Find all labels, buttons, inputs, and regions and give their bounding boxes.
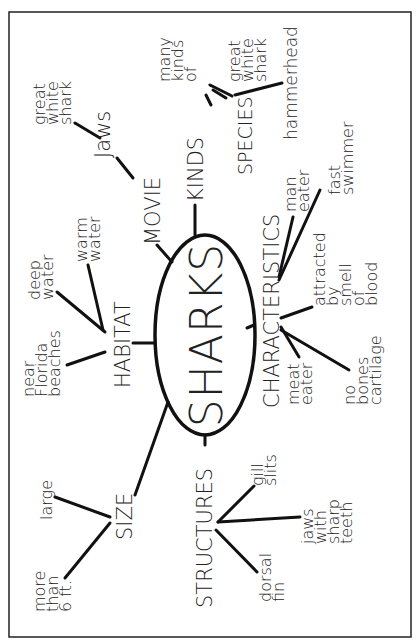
branch-kinds: KINDS SPECIES many kinds of great white … bbox=[155, 26, 301, 202]
svg-text:blood: blood bbox=[362, 262, 381, 306]
svg-text:water: water bbox=[85, 216, 104, 262]
leaf-large: large bbox=[37, 480, 56, 520]
shark-mind-map: SHARKS MOVIE Ja bbox=[0, 0, 420, 643]
branch-label-movie: MOVIE bbox=[141, 177, 165, 245]
svg-text:eater: eater bbox=[294, 169, 313, 212]
node-species: SPECIES bbox=[234, 97, 256, 175]
branch-characteristics: CHARACTERISTICS man eater fast swimmer a… bbox=[260, 121, 385, 408]
svg-text:shark: shark bbox=[251, 38, 270, 82]
svg-text:cartilage: cartilage bbox=[366, 335, 385, 405]
leaf-many-kinds-of: many kinds of bbox=[155, 37, 200, 82]
svg-text:of: of bbox=[181, 66, 200, 82]
svg-text:fin: fin bbox=[269, 582, 288, 602]
branch-label-habitat: HABITAT bbox=[111, 301, 135, 388]
svg-text:6 ft.: 6 ft. bbox=[56, 580, 75, 612]
leaf-man-eater: man eater bbox=[281, 169, 313, 212]
svg-text:beaches: beaches bbox=[45, 330, 64, 397]
leaf-warm-water: warm water bbox=[72, 216, 104, 262]
svg-text:water: water bbox=[38, 254, 57, 300]
branch-label-structures: STRUCTURES bbox=[193, 468, 217, 608]
central-topic: SHARKS bbox=[181, 243, 232, 427]
leaf-great-white-shark-movie: great white shark bbox=[30, 81, 75, 125]
leaf-gill-slits: gill slits bbox=[248, 454, 280, 486]
leaf-deep-water: deep water bbox=[25, 254, 57, 300]
svg-text:eater: eater bbox=[297, 362, 316, 405]
svg-text:shark: shark bbox=[56, 81, 75, 125]
leaf-more-than-6ft: more than 6 ft. bbox=[30, 571, 75, 612]
branch-label-kinds: KINDS bbox=[184, 137, 208, 202]
branch-label-characteristics: CHARACTERISTICS bbox=[260, 214, 284, 408]
leaf-jaws-with-sharp-teeth: jaws with sharp teeth bbox=[298, 499, 356, 545]
branch-habitat: HABITAT near Florida beaches deep water … bbox=[19, 216, 135, 397]
svg-text:slits: slits bbox=[261, 454, 280, 486]
leaf-attracted-by-smell-of-blood: attracted by smell of blood bbox=[310, 232, 381, 306]
leaf-hammerhead: hammerhead bbox=[281, 26, 301, 140]
leaf-meat-eater: meat eater bbox=[284, 362, 316, 405]
leaf-fast-swimmer: fast swimmer bbox=[325, 121, 357, 195]
svg-text:teeth: teeth bbox=[337, 502, 356, 544]
leaf-great-white-shark-species: great white shark bbox=[225, 38, 270, 82]
leaf-near-florida-beaches: near Florida beaches bbox=[19, 330, 64, 397]
branch-label-size: SIZE bbox=[113, 493, 137, 540]
branch-size: SIZE large more than 6 ft. bbox=[30, 480, 137, 612]
node-jaws: Jaws bbox=[91, 111, 115, 158]
svg-text:swimmer: swimmer bbox=[338, 121, 357, 195]
leaf-dorsal-fin: dorsal fin bbox=[256, 553, 288, 602]
